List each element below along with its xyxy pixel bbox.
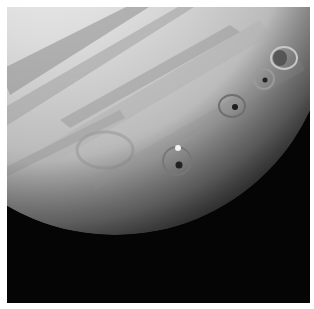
jupiter-photo: [7, 7, 310, 303]
jupiter-svg: [7, 7, 310, 303]
